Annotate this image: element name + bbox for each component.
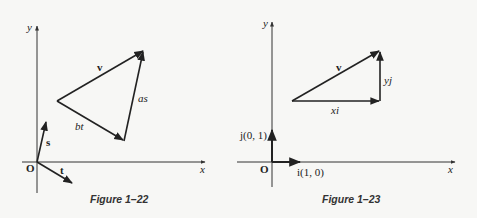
- figure-1-22: y x O v as bt s t Figure 1–22: [22, 21, 205, 205]
- x-axis-label: x: [447, 163, 453, 175]
- y-axis-label: y: [262, 17, 268, 29]
- figures-canvas: y x O v as bt s t Figure 1–22 y x O v yj…: [0, 0, 477, 218]
- vector-s: [37, 122, 46, 162]
- label-i: i(1, 0): [297, 166, 324, 179]
- label-v: v: [336, 61, 342, 73]
- y-axis-label: y: [26, 21, 32, 33]
- origin-label: O: [26, 162, 35, 174]
- label-bt: bt: [75, 120, 85, 132]
- label-t: t: [60, 164, 64, 176]
- figure-caption: Figure 1–22: [90, 193, 149, 205]
- origin-label: O: [260, 163, 269, 175]
- vector-bt: [57, 101, 123, 140]
- label-s: s: [46, 136, 51, 148]
- vector-v: [292, 51, 379, 101]
- label-v: v: [97, 61, 103, 73]
- label-j: j(0, 1): [239, 129, 267, 142]
- label-yj: yj: [383, 74, 392, 86]
- figure-caption: Figure 1–23: [322, 193, 381, 205]
- label-as: as: [138, 92, 148, 104]
- label-xi: xi: [330, 104, 339, 116]
- vector-t: [37, 162, 72, 183]
- vector-v: [57, 51, 143, 101]
- x-axis-label: x: [199, 163, 205, 175]
- figure-1-23: y x O v yj xi j(0, 1) i(1, 0) Figure 1–2…: [237, 17, 455, 205]
